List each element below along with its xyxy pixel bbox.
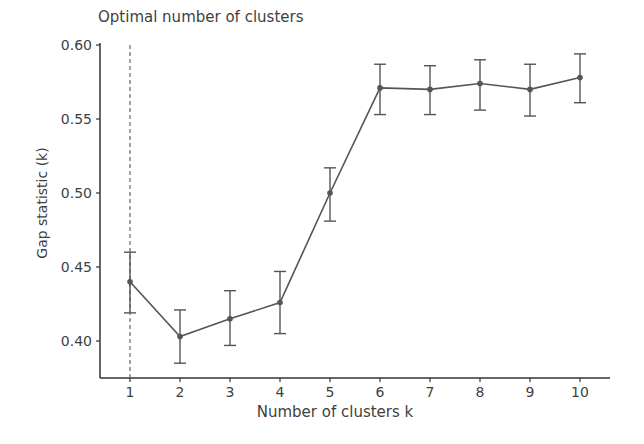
x-tick-label: 9 — [526, 384, 535, 400]
data-point — [327, 190, 333, 196]
x-tick-label: 7 — [426, 384, 435, 400]
data-point — [127, 279, 133, 285]
x-axis-label: Number of clusters k — [0, 403, 644, 421]
data-point — [527, 87, 533, 93]
x-tick-label: 10 — [571, 384, 589, 400]
chart-title: Optimal number of clusters — [98, 8, 303, 26]
data-point — [377, 85, 383, 91]
data-point — [477, 81, 483, 87]
gap-statistic-chart: 0.400.450.500.550.6012345678910 — [0, 0, 644, 444]
gap-line — [130, 78, 580, 337]
x-tick-label: 2 — [176, 384, 185, 400]
x-tick-label: 8 — [476, 384, 485, 400]
data-point — [277, 300, 283, 306]
data-point — [427, 87, 433, 93]
data-point — [577, 75, 583, 81]
x-tick-label: 3 — [226, 384, 235, 400]
data-point — [177, 334, 183, 340]
data-point — [227, 316, 233, 322]
y-tick-label: 0.45 — [61, 259, 92, 275]
y-axis-label: Gap statistic (k) — [34, 123, 50, 283]
x-tick-label: 4 — [276, 384, 285, 400]
y-tick-label: 0.55 — [61, 111, 92, 127]
y-tick-label: 0.50 — [61, 185, 92, 201]
y-tick-label: 0.60 — [61, 37, 92, 53]
x-tick-label: 5 — [326, 384, 335, 400]
y-tick-label: 0.40 — [61, 333, 92, 349]
x-tick-label: 6 — [376, 384, 385, 400]
x-tick-label: 1 — [126, 384, 135, 400]
